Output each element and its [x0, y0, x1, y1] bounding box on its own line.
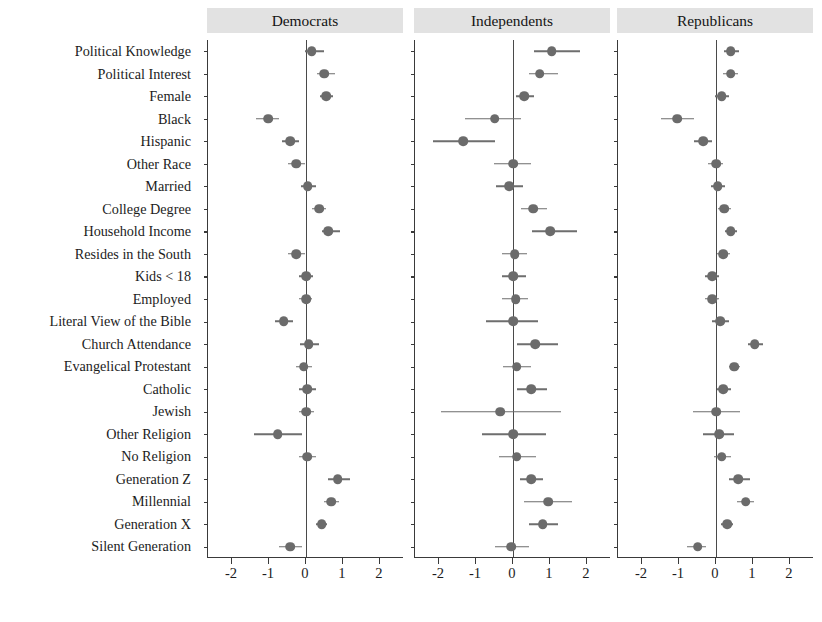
point-estimate-marker	[508, 317, 518, 327]
category-label: Catholic	[0, 378, 196, 401]
point-estimate-marker	[304, 339, 314, 349]
category-label: College Degree	[0, 198, 196, 221]
estimate-row	[208, 535, 403, 558]
x-axis-tick	[586, 558, 587, 564]
estimate-row	[618, 198, 813, 221]
estimate-row	[208, 355, 403, 378]
category-label: No Religion	[0, 445, 196, 468]
estimate-row	[208, 490, 403, 513]
estimate-row	[208, 40, 403, 63]
estimate-row	[618, 445, 813, 468]
x-axis-tick	[641, 558, 642, 564]
panel-republicans: Republicans-2-1012	[617, 0, 813, 622]
point-estimate-marker	[538, 519, 548, 529]
estimate-row	[415, 153, 610, 176]
x-axis-tick-label: 0	[711, 565, 718, 582]
estimate-row	[618, 288, 813, 311]
point-estimate-marker	[741, 497, 751, 507]
point-estimate-marker	[286, 542, 296, 552]
estimate-row	[618, 175, 813, 198]
category-label: Married	[0, 175, 196, 198]
point-estimate-marker	[511, 294, 521, 304]
x-axis-tick	[549, 558, 550, 564]
category-label: Household Income	[0, 220, 196, 243]
category-label: Hispanic	[0, 130, 196, 153]
x-axis-tick-label: 0	[508, 565, 515, 582]
coefficient-plot-figure: Political KnowledgePolitical InterestFem…	[0, 0, 822, 622]
point-estimate-marker	[512, 362, 522, 372]
x-axis-tick-label: 1	[545, 565, 552, 582]
confidence-interval-bar	[534, 51, 579, 53]
estimate-row	[208, 378, 403, 401]
x-axis: -2-1012	[617, 558, 813, 608]
point-estimate-marker	[506, 542, 516, 552]
estimate-row	[208, 513, 403, 536]
panel-independents: Independents-2-1012	[414, 0, 610, 622]
point-estimate-marker	[286, 137, 296, 147]
point-estimate-marker	[547, 46, 557, 56]
point-estimate-marker	[302, 384, 312, 394]
estimate-row	[208, 468, 403, 491]
point-estimate-marker	[301, 407, 311, 417]
x-axis-tick-label: -1	[469, 565, 481, 582]
x-axis-tick	[268, 558, 269, 564]
point-estimate-marker	[717, 91, 727, 101]
plot-area	[414, 40, 610, 558]
estimate-row	[618, 85, 813, 108]
point-estimate-marker	[519, 91, 529, 101]
estimate-row	[415, 400, 610, 423]
point-estimate-marker	[307, 46, 317, 56]
estimate-row	[415, 333, 610, 356]
estimate-row	[415, 423, 610, 446]
estimate-row	[618, 108, 813, 131]
x-axis-tick	[379, 558, 380, 564]
point-estimate-marker	[279, 317, 289, 327]
point-estimate-marker	[719, 384, 729, 394]
category-label: Other Religion	[0, 423, 196, 446]
x-axis-tick	[305, 558, 306, 564]
category-label: Kids < 18	[0, 265, 196, 288]
estimate-row	[618, 513, 813, 536]
x-axis: -2-1012	[414, 558, 610, 608]
panel-title: Democrats	[207, 8, 403, 33]
estimate-row	[618, 468, 813, 491]
estimate-row	[208, 220, 403, 243]
point-estimate-marker	[708, 272, 718, 282]
category-label: Generation Z	[0, 468, 196, 491]
estimate-row	[618, 310, 813, 333]
estimate-row	[415, 445, 610, 468]
point-estimate-marker	[303, 182, 313, 192]
x-axis-tick-label: 2	[375, 565, 382, 582]
point-estimate-marker	[263, 114, 273, 124]
estimate-row	[208, 423, 403, 446]
point-estimate-marker	[527, 384, 537, 394]
plot-area	[617, 40, 813, 558]
point-estimate-marker	[292, 159, 302, 169]
estimate-row	[208, 85, 403, 108]
point-estimate-marker	[326, 497, 336, 507]
point-estimate-marker	[698, 137, 708, 147]
point-estimate-marker	[527, 474, 537, 484]
point-estimate-marker	[495, 407, 505, 417]
category-label: Political Interest	[0, 63, 196, 86]
x-axis-tick-label: -2	[635, 565, 647, 582]
category-label: Female	[0, 85, 196, 108]
point-estimate-marker	[508, 429, 518, 439]
estimate-row	[415, 535, 610, 558]
estimate-row	[618, 400, 813, 423]
point-estimate-marker	[299, 362, 309, 372]
estimate-row	[618, 490, 813, 513]
point-estimate-marker	[320, 69, 330, 79]
estimate-row	[415, 490, 610, 513]
point-estimate-marker	[512, 452, 522, 462]
x-axis-tick	[475, 558, 476, 564]
point-estimate-marker	[535, 69, 545, 79]
plot-area	[207, 40, 403, 558]
point-estimate-marker	[719, 249, 729, 259]
point-estimate-marker	[530, 339, 540, 349]
point-estimate-marker	[529, 204, 539, 214]
x-axis-tick-label: -2	[432, 565, 444, 582]
point-estimate-marker	[508, 159, 518, 169]
point-estimate-marker	[716, 317, 726, 327]
point-estimate-marker	[722, 519, 732, 529]
